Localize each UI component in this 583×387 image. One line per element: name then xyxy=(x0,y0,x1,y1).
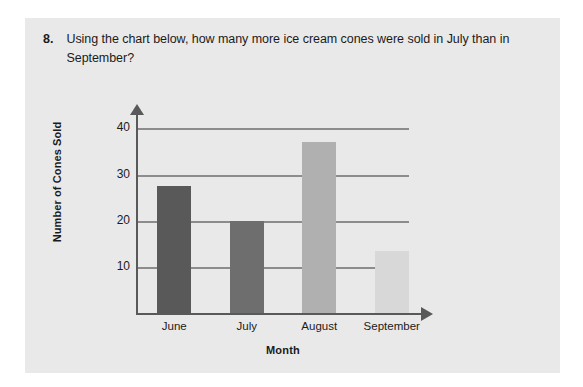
x-axis-title: Month xyxy=(138,344,428,356)
question-block: 8. Using the chart below, how many more … xyxy=(43,30,538,68)
y-tick-10: 10 xyxy=(85,267,130,268)
y-tick-label: 30 xyxy=(100,167,130,181)
y-tick-label: 20 xyxy=(100,213,130,227)
worksheet-panel: 8. Using the chart below, how many more … xyxy=(25,18,560,373)
x-tick-label-june: June xyxy=(134,320,214,332)
question-text: Using the chart below, how many more ice… xyxy=(66,30,538,68)
x-axis-arrow-icon xyxy=(421,307,433,321)
x-tick-label-august: August xyxy=(279,320,359,332)
bar-chart: Number of Cones Sold 10203040 JuneJulyAu… xyxy=(25,88,560,373)
bar-august xyxy=(302,142,336,313)
y-tick-label: 10 xyxy=(100,259,130,273)
y-tick-40: 40 xyxy=(85,128,130,129)
x-tick-label-july: July xyxy=(207,320,287,332)
bar-september xyxy=(375,251,409,313)
y-tick-30: 30 xyxy=(85,175,130,176)
x-axis-line xyxy=(136,313,423,315)
plot-area xyxy=(138,110,428,313)
x-tick-label-september: September xyxy=(352,320,432,332)
y-tick-label: 40 xyxy=(100,120,130,134)
bar-june xyxy=(157,186,191,313)
y-tick-20: 20 xyxy=(85,221,130,222)
y-axis-title: Number of Cones Sold xyxy=(51,102,63,262)
question-number: 8. xyxy=(43,30,53,49)
bar-july xyxy=(230,221,264,313)
